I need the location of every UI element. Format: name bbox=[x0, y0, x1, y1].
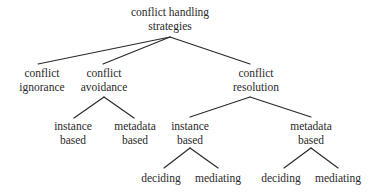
node-resolution-metadata-based: metadata based bbox=[290, 119, 332, 147]
node-label-line1: conflict bbox=[81, 66, 128, 80]
node-label-line2: based bbox=[171, 133, 209, 147]
node-label-line1: conflict bbox=[19, 66, 64, 80]
edge-avoidance-to-metadata bbox=[104, 97, 134, 118]
node-label-line2: ignorance bbox=[19, 80, 64, 94]
node-conflict-resolution: conflict resolution bbox=[233, 66, 279, 94]
node-res-instance-mediating: mediating bbox=[195, 171, 241, 185]
node-res-instance-deciding: deciding bbox=[141, 171, 181, 185]
node-conflict-avoidance: conflict avoidance bbox=[81, 66, 128, 94]
node-label-line2: based bbox=[54, 133, 92, 147]
node-conflict-ignorance: conflict ignorance bbox=[19, 66, 64, 94]
edge-root-to-resolution bbox=[170, 37, 250, 64]
node-label-line2: based bbox=[290, 133, 332, 147]
edge-avoidance-to-instance bbox=[74, 97, 104, 118]
node-label-line1: conflict handling bbox=[131, 5, 209, 19]
node-label-line2: resolution bbox=[233, 80, 279, 94]
node-avoidance-instance-based: instance based bbox=[54, 119, 92, 147]
node-label-line1: metadata bbox=[114, 119, 156, 133]
node-avoidance-metadata-based: metadata based bbox=[114, 119, 156, 147]
node-label-line2: avoidance bbox=[81, 80, 128, 94]
edge-root-to-ignorance bbox=[38, 37, 170, 64]
edge-resolution-to-instance bbox=[190, 97, 250, 117]
node-label-line1: instance bbox=[54, 119, 92, 133]
edge-res-metadata-to-mediating bbox=[311, 148, 338, 168]
node-label-line2: strategies bbox=[131, 19, 209, 33]
edge-resolution-to-metadata bbox=[250, 97, 311, 117]
node-label: mediating bbox=[315, 171, 361, 185]
edge-res-instance-to-mediating bbox=[190, 148, 218, 168]
node-label-line2: based bbox=[114, 133, 156, 147]
node-label-line1: conflict bbox=[233, 66, 279, 80]
edge-root-to-avoidance bbox=[103, 37, 170, 64]
node-label: deciding bbox=[261, 171, 301, 185]
node-label-line1: instance bbox=[171, 119, 209, 133]
node-resolution-instance-based: instance based bbox=[171, 119, 209, 147]
conflict-handling-tree-diagram: conflict handling strategies conflict ig… bbox=[0, 0, 376, 192]
node-conflict-handling-strategies: conflict handling strategies bbox=[131, 5, 209, 33]
node-label: deciding bbox=[141, 171, 181, 185]
node-label: mediating bbox=[195, 171, 241, 185]
node-label-line1: metadata bbox=[290, 119, 332, 133]
edge-res-metadata-to-deciding bbox=[284, 148, 311, 168]
node-res-metadata-mediating: mediating bbox=[315, 171, 361, 185]
node-res-metadata-deciding: deciding bbox=[261, 171, 301, 185]
edge-res-instance-to-deciding bbox=[164, 148, 190, 168]
